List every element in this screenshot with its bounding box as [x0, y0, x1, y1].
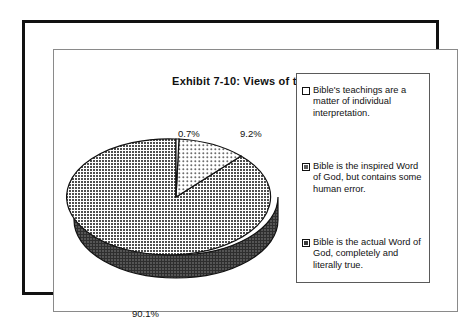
legend-swatch-hatch-icon	[302, 239, 310, 247]
legend-item-inspired-word: Bible is the inspired Word of God, but c…	[302, 161, 423, 195]
legend-item-actual-word: Bible is the actual Word of God, complet…	[302, 237, 423, 271]
legend-label-inspired-word: Bible is the inspired Word of God, but c…	[313, 161, 423, 195]
legend-label-individual-interpretation: Bible's teachings are a matter of indivi…	[313, 85, 423, 119]
chart-legend: Bible's teachings are a matter of indivi…	[296, 73, 430, 283]
legend-swatch-dotted-icon	[302, 163, 310, 171]
legend-list: Bible's teachings are a matter of indivi…	[297, 74, 429, 282]
pie-label-inspired-word: 9.2%	[240, 128, 262, 139]
legend-item-individual-interpretation: Bible's teachings are a matter of indivi…	[302, 85, 423, 119]
pie-label-actual-word: 90.1%	[132, 308, 159, 318]
legend-swatch-white-icon	[302, 87, 310, 95]
pie-label-individual-interpretation: 0.7%	[178, 128, 200, 139]
chart-screenshot: Exhibit 7-10: Views of the Bible	[0, 0, 461, 318]
legend-label-actual-word: Bible is the actual Word of God, complet…	[313, 237, 423, 271]
